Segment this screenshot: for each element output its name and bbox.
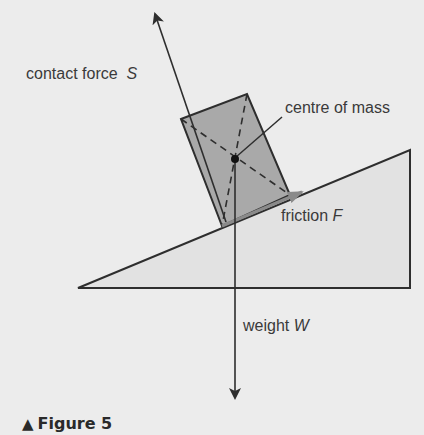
weight-label: weight W — [243, 318, 309, 334]
weight-symbol: W — [294, 317, 309, 334]
centre-of-mass-dot — [231, 155, 239, 163]
friction-text: friction — [281, 207, 328, 224]
figure-caption-text: Figure 5 — [38, 414, 113, 433]
weight-text: weight — [243, 317, 289, 334]
contact-force-symbol: S — [127, 65, 138, 82]
centre-of-mass-label: centre of mass — [285, 100, 390, 116]
friction-symbol: F — [333, 207, 343, 224]
triangle-marker-icon: ▲ — [22, 415, 34, 433]
contact-force-label: contact force S — [26, 66, 137, 82]
contact-force-text: contact force — [26, 65, 118, 82]
friction-label: friction F — [281, 208, 342, 224]
inclined-plane-diagram: contact force S centre of mass friction … — [0, 0, 424, 435]
figure-caption: ▲Figure 5 — [22, 416, 112, 432]
